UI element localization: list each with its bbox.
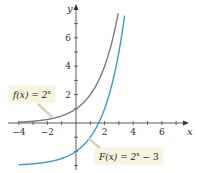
callout-F-suffix: − 3 bbox=[140, 152, 159, 162]
x-tick-label: 4 bbox=[130, 127, 136, 137]
y-tick-label: 6 bbox=[65, 33, 71, 43]
x-tick-label: 6 bbox=[159, 127, 165, 137]
callout-F: F(x) = 2x − 3 bbox=[95, 148, 163, 164]
x-tick-label: 2 bbox=[102, 127, 108, 137]
x-tick-label: −4 bbox=[12, 127, 26, 137]
callout-F-text: F(x) = 2 bbox=[99, 152, 136, 162]
y-tick-label: 4 bbox=[65, 61, 71, 71]
callout-F-leader bbox=[88, 138, 100, 148]
x-tick-label: −2 bbox=[41, 127, 54, 137]
callout-f-leader bbox=[38, 104, 52, 117]
x-axis-arrow-icon bbox=[183, 121, 189, 126]
chart-root: −4−2246246xy f(x) = 2x F(x) = 2x − 3 bbox=[0, 0, 197, 173]
y-axis-label: y bbox=[66, 3, 73, 14]
x-axis-label: x bbox=[187, 126, 193, 137]
callout-leaders bbox=[38, 104, 100, 148]
y-tick-label: 2 bbox=[65, 90, 71, 100]
callout-f-exponent: x bbox=[47, 88, 50, 95]
callout-f: f(x) = 2x bbox=[9, 86, 55, 102]
callout-f-text: f(x) = 2 bbox=[13, 90, 47, 100]
